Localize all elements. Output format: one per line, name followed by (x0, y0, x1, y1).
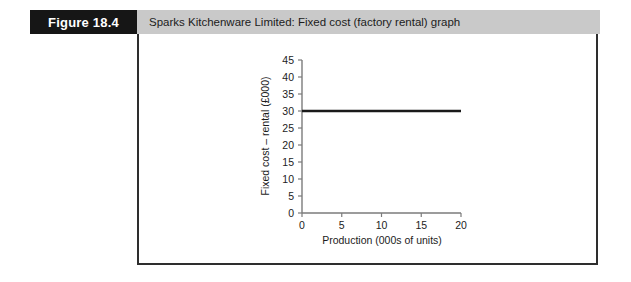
figure-frame-corner (137, 34, 139, 36)
figure-number-badge: Figure 18.4 (30, 10, 137, 34)
figure-title-bar: Sparks Kitchenware Limited: Fixed cost (… (137, 10, 600, 34)
figure-content-frame (137, 34, 598, 265)
figure-number-label: Figure 18.4 (48, 15, 119, 30)
figure-header: Figure 18.4 Sparks Kitchenware Limited: … (30, 10, 600, 34)
figure-title-text: Sparks Kitchenware Limited: Fixed cost (… (137, 16, 460, 28)
